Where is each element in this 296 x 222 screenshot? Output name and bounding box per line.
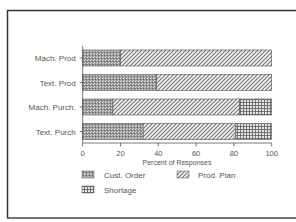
plot-area	[83, 50, 272, 140]
x-tick-label-40: 40	[154, 149, 162, 158]
bar-mach-purch-cust-order	[83, 99, 113, 115]
y-label-mach-prod: Mach. Prod	[35, 54, 76, 63]
x-tick-label-100: 100	[265, 149, 278, 158]
x-axis-title: Percent of Responses	[143, 159, 212, 167]
legend-label-shortage: Shortage	[104, 186, 137, 195]
legend-item-prod-plan: Prod. Plan	[177, 171, 235, 180]
legend-label-cust-order: Cust. Order	[104, 171, 146, 180]
bar-text-purch-shortage	[236, 124, 272, 140]
y-label-text-prod: Text. Prod	[40, 79, 76, 88]
legend-swatch-shortage	[82, 186, 94, 193]
stacked-bar-chart: 020406080100 Mach. ProdText. ProdMach. P…	[0, 0, 296, 222]
legend-item-cust-order: Cust. Order	[82, 171, 146, 180]
bar-text-purch-prod-plan	[143, 124, 236, 140]
x-ticks: 020406080100	[81, 143, 278, 158]
bar-text-prod-prod-plan	[156, 75, 271, 91]
bar-mach-purch-prod-plan	[113, 99, 240, 115]
x-tick-label-60: 60	[192, 149, 200, 158]
bar-mach-prod-prod-plan	[121, 50, 272, 66]
x-tick-label-0: 0	[81, 149, 85, 158]
legend: Cust. Order Prod. Plan Shortage	[82, 171, 235, 195]
bar-mach-purch-shortage	[240, 99, 272, 115]
bar-text-purch-cust-order	[83, 124, 143, 140]
legend-label-prod-plan: Prod. Plan	[198, 171, 235, 180]
y-tick-labels: Mach. ProdText. ProdMach. Purch.Text. Pu…	[29, 54, 83, 137]
x-tick-label-80: 80	[230, 149, 238, 158]
legend-swatch-prod-plan	[177, 171, 189, 178]
y-label-mach-purch: Mach. Purch.	[29, 103, 76, 112]
bar-text-prod-cust-order	[83, 75, 157, 91]
legend-item-shortage: Shortage	[82, 186, 137, 195]
x-tick-label-20: 20	[116, 149, 124, 158]
legend-swatch-cust-order	[82, 171, 94, 178]
y-label-text-purch: Text. Purch	[36, 128, 76, 137]
bar-mach-prod-cust-order	[83, 50, 121, 66]
